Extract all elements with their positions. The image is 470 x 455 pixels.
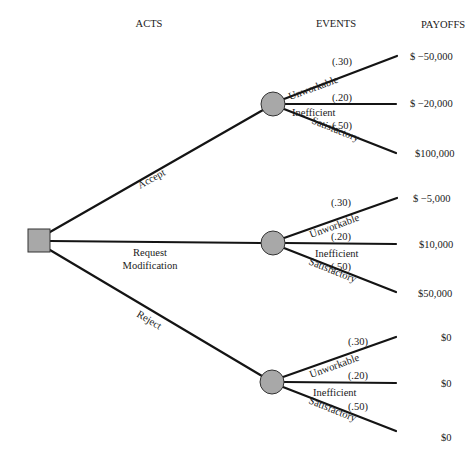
payoff-inefficient: $10,000 xyxy=(419,239,453,250)
chance-node-circle xyxy=(261,92,285,116)
header-acts: ACTS xyxy=(136,18,163,29)
probability-inefficient: (.20) xyxy=(331,231,352,243)
act-label-modification: Modification xyxy=(123,260,179,271)
payoff-unworkable: $0 xyxy=(441,332,452,343)
probability-unworkable: (.30) xyxy=(348,336,369,348)
payoff-satisfactory: $50,000 xyxy=(418,288,452,299)
header-events: EVENTS xyxy=(316,18,356,29)
probability-unworkable: (.30) xyxy=(331,197,352,209)
payoff-unworkable: $ −5,000 xyxy=(413,193,450,204)
probability-unworkable: (.30) xyxy=(332,56,353,68)
event-label-inefficient: Inefficient xyxy=(315,248,359,259)
chance-group-request-modification: (.30) Unworkable (.20) Inefficient (.50)… xyxy=(261,193,453,299)
branch-request-modification xyxy=(50,241,261,243)
chance-group-reject: (.30) Unworkable (.20) Inefficient (.50)… xyxy=(260,332,452,443)
chance-node-circle xyxy=(260,370,284,394)
act-label-accept: Accept xyxy=(136,167,167,191)
decision-node-square xyxy=(28,229,50,252)
payoff-satisfactory: $0 xyxy=(441,432,452,443)
header-payoffs: PAYOFFS xyxy=(421,19,465,30)
act-label-reject: Reject xyxy=(135,308,164,331)
decision-tree: ACTS EVENTS PAYOFFS Accept Request Modif… xyxy=(0,0,470,455)
event-branch-inefficient xyxy=(284,382,396,383)
payoff-inefficient: $ −20,000 xyxy=(410,98,453,109)
chance-group-accept: (.30) Unworkable (.20) Inefficient (.50)… xyxy=(261,51,454,159)
event-branch-unworkable xyxy=(283,337,396,377)
event-label-inefficient: Inefficient xyxy=(313,387,357,398)
event-branch-inefficient xyxy=(285,243,396,244)
payoff-unworkable: $ −50,000 xyxy=(410,51,453,62)
probability-inefficient: (.20) xyxy=(332,92,353,104)
payoff-inefficient: $0 xyxy=(441,378,452,389)
probability-inefficient: (.20) xyxy=(348,370,369,382)
act-label-request: Request xyxy=(133,247,167,258)
chance-node-circle xyxy=(261,231,285,255)
payoff-satisfactory: $100,000 xyxy=(415,148,454,159)
